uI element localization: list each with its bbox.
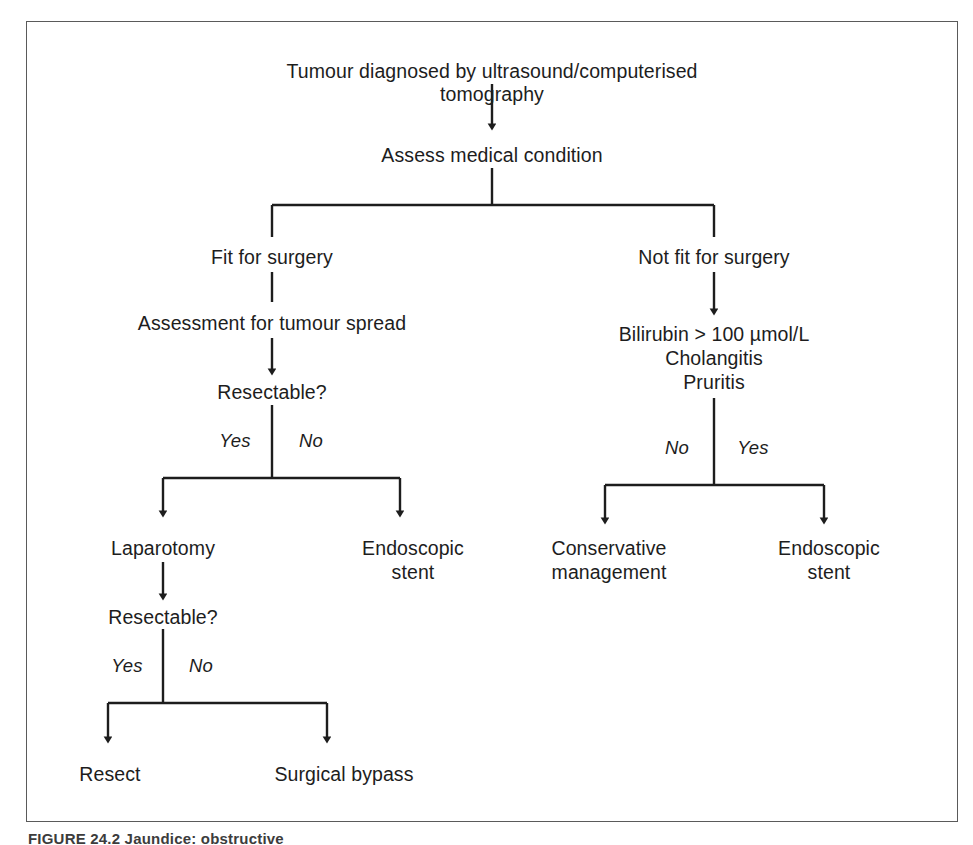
node-root: Tumour diagnosed by ultrasound/computeri… <box>252 60 733 106</box>
node-assessment-for-tumour-spread: Assessment for tumour spread <box>138 312 406 335</box>
node-fit-for-surgery: Fit for surgery <box>211 246 333 269</box>
node-endoscopic-stent-right-line1: Endoscopic <box>778 537 880 560</box>
node-criteria-pruritis: Pruritis <box>683 371 744 394</box>
edge-label-left-no-2: No <box>189 655 213 677</box>
node-criteria-bilirubin: Bilirubin > 100 µmol/L <box>619 323 810 346</box>
edge-label-left-yes-2: Yes <box>111 655 142 677</box>
node-conservative-management-line2: management <box>552 561 667 584</box>
node-endoscopic-stent-right-line2: stent <box>808 561 851 584</box>
node-resectable-2: Resectable? <box>108 606 218 629</box>
node-laparotomy: Laparotomy <box>111 537 215 560</box>
node-conservative-management-line1: Conservative <box>551 537 666 560</box>
edge-label-right-no: No <box>665 437 689 459</box>
node-endoscopic-stent-left-line1: Endoscopic <box>362 537 464 560</box>
node-resect: Resect <box>79 763 140 786</box>
edge-label-right-yes: Yes <box>737 437 768 459</box>
edge-label-left-no-1: No <box>299 430 323 452</box>
node-criteria-cholangitis: Cholangitis <box>665 347 763 370</box>
node-assess-medical-condition: Assess medical condition <box>381 144 602 167</box>
figure-caption: FIGURE 24.2 Jaundice: obstructive <box>28 830 284 845</box>
node-resectable-1: Resectable? <box>217 381 327 404</box>
edge-label-left-yes-1: Yes <box>219 430 250 452</box>
figure-root: Tumour diagnosed by ultrasound/computeri… <box>0 0 973 845</box>
node-not-fit-for-surgery: Not fit for surgery <box>638 246 789 269</box>
node-endoscopic-stent-left-line2: stent <box>392 561 435 584</box>
figure-border <box>26 21 958 822</box>
node-surgical-bypass: Surgical bypass <box>274 763 413 786</box>
